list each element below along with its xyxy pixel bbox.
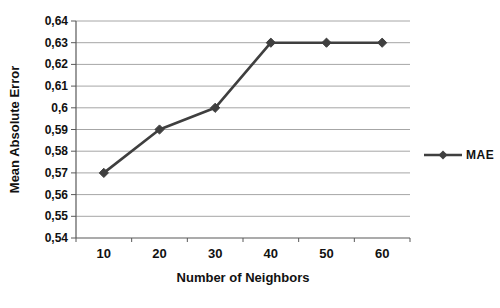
y-tick-label: 0,57 bbox=[45, 166, 69, 180]
y-tick-label: 0,54 bbox=[45, 231, 69, 245]
x-tick-label: 50 bbox=[319, 246, 333, 261]
x-tick-label: 30 bbox=[208, 246, 222, 261]
y-tick-label: 0,61 bbox=[45, 79, 69, 93]
legend-label: MAE bbox=[466, 148, 494, 162]
y-axis-title: Mean Absolute Error bbox=[8, 66, 23, 193]
y-axis-title-container: Mean Absolute Error bbox=[2, 21, 28, 238]
y-tick-label: 0,63 bbox=[45, 36, 69, 50]
x-tick-label: 60 bbox=[375, 246, 389, 261]
x-tick-label: 40 bbox=[264, 246, 278, 261]
y-tick-label: 0,62 bbox=[45, 57, 69, 71]
y-tick-label: 0,6 bbox=[51, 101, 68, 115]
data-point-marker bbox=[322, 38, 331, 47]
legend-line-marker-icon bbox=[423, 148, 463, 162]
x-axis-title: Number of Neighbors bbox=[76, 270, 410, 285]
data-point-marker bbox=[378, 38, 387, 47]
legend: MAE bbox=[423, 148, 494, 162]
x-tick-label: 10 bbox=[97, 246, 111, 261]
y-tick-label: 0,59 bbox=[45, 123, 69, 137]
y-tick-label: 0,64 bbox=[45, 14, 69, 28]
y-tick-label: 0,55 bbox=[45, 209, 69, 223]
line-chart: 0,640,630,620,610,60,590,580,570,560,550… bbox=[0, 0, 500, 308]
y-tick-label: 0,56 bbox=[45, 188, 69, 202]
y-tick-label: 0,58 bbox=[45, 144, 69, 158]
x-tick-label: 20 bbox=[152, 246, 166, 261]
